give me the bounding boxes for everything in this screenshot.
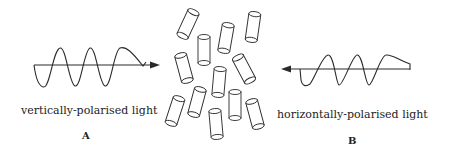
arrow-left-icon [281, 66, 291, 73]
molecule-cluster [165, 7, 265, 140]
cylinder-molecule [174, 51, 194, 84]
sine-wave-b [300, 55, 410, 86]
cylinder-molecule [176, 7, 200, 40]
cylinder-molecule [187, 85, 207, 118]
label-horizontally-polarised: horizontally-polarised light [277, 108, 428, 121]
label-vertically-polarised: vertically-polarised light [21, 104, 157, 117]
cylinder-molecule [245, 97, 265, 130]
polarised-light-diagram: vertically-polarised light A horizontall… [0, 0, 449, 160]
cylinder-molecule [229, 90, 241, 121]
arrow-right-icon [150, 62, 160, 69]
cylinder-molecule [198, 35, 210, 66]
vertical-wave-a [34, 48, 160, 87]
cylinder-molecule [165, 94, 186, 127]
cylinder-molecule [212, 66, 227, 98]
horizontal-wave-b [281, 55, 410, 86]
cylinder-molecule [217, 22, 234, 55]
cylinder-molecule [231, 52, 256, 85]
panel-letter-b: B [348, 135, 356, 146]
cylinder-molecule [209, 108, 224, 140]
cylinder-molecule [245, 11, 261, 43]
sine-wave-a [34, 48, 146, 87]
panel-letter-a: A [82, 130, 90, 141]
